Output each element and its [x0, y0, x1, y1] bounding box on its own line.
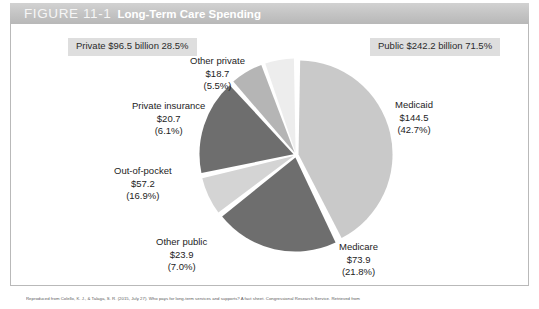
label-other-public-name: Other public	[156, 236, 207, 249]
label-medicare: Medicare $73.9 (21.8%)	[339, 241, 378, 279]
label-private-insurance-amount: $20.7	[132, 113, 205, 126]
label-other-private-percent: (5.5%)	[190, 80, 245, 93]
public-summary-label: Public	[378, 40, 404, 51]
figure-citation: Reproduced from Colello, K. J., & Talaga…	[26, 296, 526, 307]
label-out-of-pocket: Out-of-pocket $57.2 (16.9%)	[114, 165, 172, 203]
label-other-public: Other public $23.9 (7.0%)	[156, 236, 207, 274]
label-other-public-percent: (7.0%)	[156, 261, 207, 274]
label-medicare-percent: (21.8%)	[339, 266, 378, 279]
label-medicare-amount: $73.9	[339, 254, 378, 267]
label-medicaid-amount: $144.5	[395, 112, 433, 125]
figure-header: FIGURE 11-1 Long-Term Care Spending	[10, 3, 529, 24]
label-private-insurance-name: Private insurance	[132, 100, 205, 113]
label-other-private-amount: $18.7	[190, 68, 245, 81]
public-summary-percent: 71.5%	[465, 40, 492, 51]
label-out-of-pocket-name: Out-of-pocket	[114, 165, 172, 178]
private-summary-percent: 28.5%	[162, 40, 189, 51]
label-out-of-pocket-amount: $57.2	[114, 178, 172, 191]
label-medicaid-name: Medicaid	[395, 99, 433, 112]
private-summary-box: Private $96.5 billion 28.5%	[68, 38, 197, 56]
label-out-of-pocket-percent: (16.9%)	[114, 190, 172, 203]
label-medicaid-percent: (42.7%)	[395, 124, 433, 137]
label-medicare-name: Medicare	[339, 241, 378, 254]
figure-title: Long-Term Care Spending	[117, 8, 261, 20]
label-other-public-amount: $23.9	[156, 249, 207, 262]
label-private-insurance: Private insurance $20.7 (6.1%)	[132, 100, 205, 138]
label-medicaid: Medicaid $144.5 (42.7%)	[395, 99, 433, 137]
public-summary-box: Public $242.2 billion 71.5%	[370, 38, 500, 56]
private-summary-amount: $96.5 billion	[108, 40, 159, 51]
label-other-private: Other private $18.7 (5.5%)	[190, 55, 245, 93]
figure-container: FIGURE 11-1 Long-Term Care Spending Priv…	[0, 0, 539, 309]
label-other-private-name: Other private	[190, 55, 245, 68]
figure-number: FIGURE 11-1	[24, 6, 111, 21]
public-summary-amount: $242.2 billion	[407, 40, 463, 51]
label-private-insurance-percent: (6.1%)	[132, 125, 205, 138]
private-summary-label: Private	[76, 40, 106, 51]
